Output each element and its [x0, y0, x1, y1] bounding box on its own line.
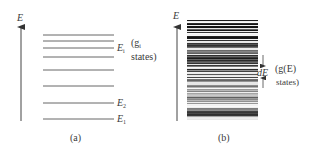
band-line — [187, 22, 258, 23]
band-line — [187, 27, 258, 28]
band-line — [187, 67, 258, 68]
band-line — [187, 100, 258, 101]
panel-a-caption: (a) — [70, 132, 81, 144]
panel-a: E Ei (gi states) E2 E1 (a) — [16, 12, 157, 144]
band-line — [187, 32, 258, 33]
band-line — [187, 38, 258, 39]
discrete-energy-levels — [43, 35, 114, 119]
band-line — [187, 69, 258, 70]
band-line — [187, 21, 258, 22]
band-line — [187, 88, 258, 89]
band-line — [187, 118, 258, 119]
degeneracy-note-line1: (gi — [131, 37, 141, 49]
band-line — [187, 96, 258, 97]
energy-level-diagram: E Ei (gi states) E2 E1 (a) E dE (g(E) st… — [0, 0, 318, 150]
band-line — [187, 73, 258, 74]
band-line — [187, 89, 258, 90]
band-line — [187, 44, 258, 45]
band-line — [187, 110, 258, 111]
band-line — [187, 28, 258, 29]
band-line — [187, 106, 258, 107]
continuous-energy-band — [187, 20, 258, 120]
band-line — [187, 79, 258, 80]
band-line — [187, 81, 258, 82]
band-line — [187, 43, 258, 44]
band-line — [187, 97, 258, 98]
band-line — [187, 92, 258, 93]
band-line — [187, 78, 258, 79]
band-line — [187, 85, 258, 86]
band-line — [187, 95, 258, 96]
band-line — [187, 65, 258, 66]
band-line — [187, 62, 258, 63]
band-line — [187, 47, 258, 48]
band-line — [187, 116, 258, 117]
band-line — [187, 58, 258, 59]
band-line — [187, 107, 258, 108]
band-line — [187, 57, 258, 58]
band-line — [187, 20, 258, 21]
band-line — [187, 23, 258, 24]
band-line — [187, 108, 258, 109]
band-line — [187, 59, 258, 60]
band-line — [187, 46, 258, 47]
band-line — [187, 36, 258, 37]
band-line — [187, 68, 258, 69]
band-line — [187, 82, 258, 83]
band-line — [187, 105, 258, 106]
band-line — [187, 42, 258, 43]
band-line — [187, 103, 258, 104]
band-line — [187, 31, 258, 32]
band-line — [187, 25, 258, 26]
band-line — [187, 80, 258, 81]
band-line — [187, 115, 258, 116]
band-line — [187, 50, 258, 51]
band-line — [187, 114, 258, 115]
band-line — [187, 56, 258, 57]
band-line — [187, 87, 258, 88]
degeneracy-note-line2: states) — [131, 51, 157, 63]
interval-label-de: dE — [257, 67, 268, 78]
band-line — [187, 35, 258, 36]
panel-b-caption: (b) — [218, 132, 230, 144]
level-label-e1: E1 — [116, 113, 126, 125]
band-line — [187, 24, 258, 25]
band-line — [187, 90, 258, 91]
band-line — [187, 70, 258, 71]
band-line — [187, 76, 258, 77]
band-line — [187, 34, 258, 35]
band-line — [187, 98, 258, 99]
level-label-e2: E2 — [116, 97, 126, 109]
band-line — [187, 51, 258, 52]
band-line — [187, 74, 258, 75]
band-line — [187, 72, 258, 73]
density-note-line2: states) — [276, 77, 299, 87]
band-line — [187, 91, 258, 92]
energy-axis-label: E — [172, 10, 179, 21]
band-line — [187, 66, 258, 67]
band-line — [187, 109, 258, 110]
energy-axis-label: E — [16, 12, 23, 23]
band-line — [187, 54, 258, 55]
band-line — [187, 37, 258, 38]
band-line — [187, 60, 258, 61]
band-line — [187, 30, 258, 31]
band-line — [187, 119, 258, 120]
band-line — [187, 45, 258, 46]
band-line — [187, 55, 258, 56]
band-line — [187, 40, 258, 41]
band-line — [187, 48, 258, 49]
band-line — [187, 64, 258, 65]
band-line — [187, 111, 258, 112]
band-line — [187, 99, 258, 100]
band-line — [187, 93, 258, 94]
band-line — [187, 63, 258, 64]
band-line — [187, 75, 258, 76]
band-line — [187, 83, 258, 84]
band-line — [187, 86, 258, 87]
band-line — [187, 71, 258, 72]
band-line — [187, 26, 258, 27]
band-line — [187, 94, 258, 95]
band-line — [187, 41, 258, 42]
band-line — [187, 29, 258, 30]
